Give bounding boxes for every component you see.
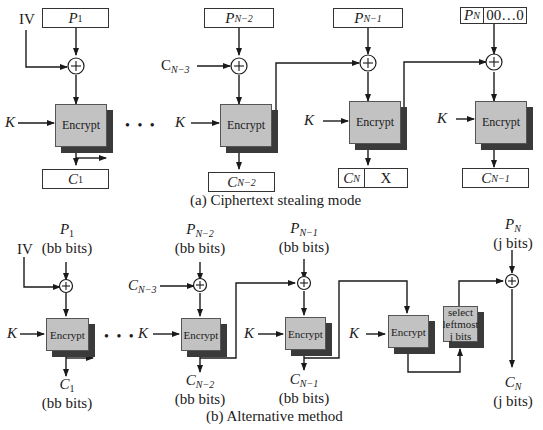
input-pn-b: PN (j bits) bbox=[490, 217, 536, 251]
plaintext-block-pn-2: PN−2 bbox=[204, 8, 274, 28]
xor-circles bbox=[60, 54, 519, 293]
ciphertext-block-cn: CN bbox=[338, 168, 365, 188]
iv-label-b: IV bbox=[17, 242, 33, 257]
output-cn-1-b: CN−1 (bb bits) bbox=[275, 372, 333, 406]
input-pn-2-b: PN−2 (bb bits) bbox=[172, 222, 228, 256]
ciphertext-block-cn-1: CN−1 bbox=[462, 168, 529, 188]
padding-block: 00…0 bbox=[483, 7, 527, 24]
discarded-block-x: X bbox=[364, 168, 408, 188]
key-label-b4: K bbox=[349, 326, 359, 341]
key-label-a4: K bbox=[437, 111, 447, 126]
key-label-b3: K bbox=[244, 326, 254, 341]
ellipsis-b: • • • bbox=[104, 329, 136, 344]
select-leftmost-j-bits-block: select leftmost j bits bbox=[443, 306, 478, 342]
encrypt-block-b3: Encrypt bbox=[285, 317, 326, 350]
encrypt-block-b1: Encrypt bbox=[46, 318, 89, 351]
output-c1-b: C1 (bb bits) bbox=[40, 377, 94, 411]
plaintext-block-pn-1: PN−1 bbox=[333, 8, 403, 28]
input-p1-b: P1 (bb bits) bbox=[40, 222, 94, 256]
input-pn-1-b: PN−1 (bb bits) bbox=[275, 221, 333, 255]
encrypt-block-a4: Encrypt bbox=[475, 101, 527, 144]
encrypt-block-a2: Encrypt bbox=[220, 104, 272, 147]
key-label-a2: K bbox=[175, 115, 185, 130]
ellipsis-a: • • • bbox=[125, 118, 157, 133]
key-label-a3: K bbox=[304, 113, 314, 128]
key-label-b2: K bbox=[138, 326, 148, 341]
encrypt-block-a1: Encrypt bbox=[55, 104, 107, 147]
plaintext-block-pn: PN bbox=[460, 7, 484, 24]
ciphertext-block-c1: C1 bbox=[42, 169, 109, 189]
key-label-b1: K bbox=[7, 326, 17, 341]
iv-label-a: IV bbox=[19, 12, 35, 27]
key-label-a1: K bbox=[5, 115, 15, 130]
caption-b: (b) Alternative method bbox=[206, 408, 343, 425]
chain-input-cn-3-a: CN−3 bbox=[161, 58, 189, 77]
output-cn-2-b: CN−2 (bb bits) bbox=[172, 373, 228, 407]
encrypt-block-b2: Encrypt bbox=[181, 318, 221, 351]
encrypt-block-b4: Encrypt bbox=[388, 315, 429, 348]
output-cn-b: CN (j bits) bbox=[490, 375, 536, 409]
connection-lines bbox=[0, 0, 543, 430]
caption-a: (a) Ciphertext stealing mode bbox=[190, 192, 361, 209]
plaintext-block-p1: P1 bbox=[42, 8, 109, 28]
chain-input-cn-3-b: CN−3 bbox=[128, 278, 156, 297]
encrypt-block-a3: Encrypt bbox=[349, 101, 401, 144]
ciphertext-block-cn-2: CN−2 bbox=[208, 172, 275, 192]
